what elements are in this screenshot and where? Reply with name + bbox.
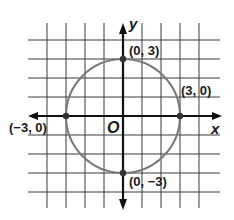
data-point	[177, 113, 183, 119]
point-label-neg3-0: (−3, 0)	[9, 121, 47, 134]
point-label-0-3: (0, 3)	[129, 44, 159, 57]
point-label-0-neg3: (0, −3)	[129, 175, 167, 188]
y-axis-arrow-down-icon	[119, 199, 127, 210]
coordinate-plane	[0, 0, 234, 220]
data-point	[120, 56, 126, 62]
data-point	[63, 113, 69, 119]
y-axis-label: y	[129, 16, 137, 31]
x-axis-label: x	[211, 121, 219, 136]
point-label-3-0: (3, 0)	[181, 84, 211, 97]
x-axis-arrow-right-icon	[212, 112, 222, 120]
data-point	[120, 170, 126, 176]
axes	[28, 23, 222, 210]
x-axis-arrow-left-icon	[28, 112, 38, 120]
y-axis-arrow-up-icon	[119, 23, 127, 34]
origin-label: O	[107, 120, 119, 136]
